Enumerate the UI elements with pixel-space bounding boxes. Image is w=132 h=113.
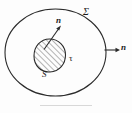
- label-outer-surface-sigma: Σ: [83, 7, 89, 17]
- outer-normal-arrow-head: [116, 48, 121, 52]
- label-volume-tau: τ: [69, 54, 73, 63]
- label-inner-surface-s: S: [42, 70, 47, 79]
- figure-container: Σ n n τ S: [0, 0, 132, 113]
- figure-drawing: [0, 0, 132, 113]
- inner-surface-region: [34, 39, 66, 72]
- label-outer-normal-n: n: [121, 43, 126, 52]
- label-inner-normal-n: n: [56, 16, 61, 25]
- inner-normal-arrow-head: [56, 26, 61, 31]
